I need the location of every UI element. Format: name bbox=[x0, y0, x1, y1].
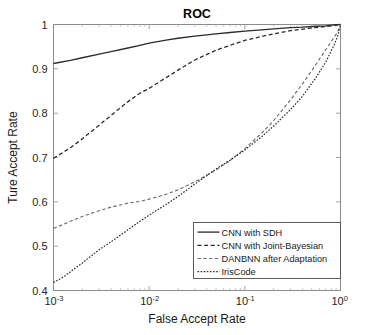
x-tick-label-3: 100 bbox=[332, 294, 348, 307]
y-tick-label-6: 1 bbox=[41, 19, 47, 31]
roc-chart-figure: 10-310-210-11000.40.50.60.70.80.91ROCFal… bbox=[0, 0, 365, 335]
legend: CNN with SDHCNN with Joint-BayesianDANBN… bbox=[194, 223, 341, 279]
x-tick-label-1: 10-2 bbox=[140, 294, 159, 307]
y-tick-label-0: 0.4 bbox=[32, 285, 47, 297]
legend-label-1: CNN with Joint-Bayesian bbox=[222, 241, 324, 251]
x-axis-label: False Accept Rate bbox=[148, 312, 246, 326]
legend-label-3: IrisCode bbox=[222, 267, 256, 277]
legend-label-2: DANBNN after Adaptation bbox=[222, 254, 328, 264]
legend-label-0: CNN with SDH bbox=[222, 228, 283, 238]
y-tick-label-5: 0.9 bbox=[32, 63, 47, 75]
chart-title: ROC bbox=[183, 7, 211, 21]
y-tick-label-1: 0.5 bbox=[32, 240, 47, 252]
y-tick-label-3: 0.7 bbox=[32, 152, 47, 164]
roc-plot-canvas: 10-310-210-11000.40.50.60.70.80.91ROCFal… bbox=[0, 0, 365, 335]
x-tick-label-2: 10-1 bbox=[236, 294, 255, 307]
y-tick-label-2: 0.6 bbox=[32, 196, 47, 208]
y-tick-label-4: 0.8 bbox=[32, 107, 47, 119]
y-axis-label: Ture Accept Rate bbox=[6, 111, 20, 204]
